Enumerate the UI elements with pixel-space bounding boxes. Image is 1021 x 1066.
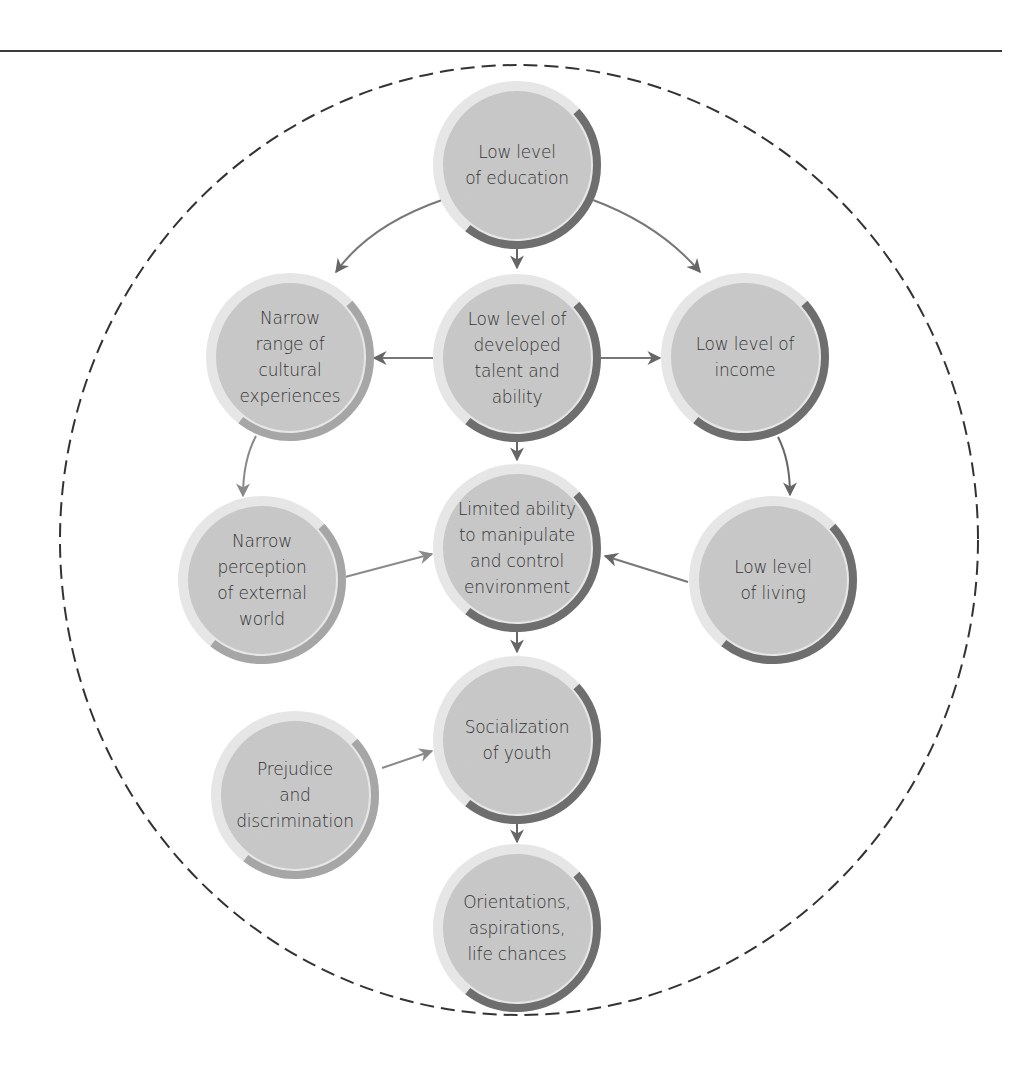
node-label-line: Narrow: [240, 305, 341, 331]
node-label-socialization: Socializationof youth: [465, 714, 569, 766]
arrow-cultural-to-perception: [243, 436, 256, 496]
node-label-cultural: Narrowrange ofculturalexperiences: [240, 305, 341, 409]
node-label-line: environment: [458, 574, 576, 600]
node-label-education: Low levelof education: [465, 139, 569, 191]
node-label-line: Socialization: [465, 714, 569, 740]
node-label-control: Limited abilityto manipulateand controle…: [458, 496, 576, 600]
node-label-line: Low level: [465, 139, 569, 165]
node-label-line: and control: [458, 548, 576, 574]
node-label-line: discrimination: [236, 808, 354, 834]
node-label-line: and: [236, 782, 354, 808]
node-label-line: perception: [217, 554, 307, 580]
node-label-line: income: [696, 357, 795, 383]
node-label-line: aspirations,: [463, 915, 571, 941]
node-label-line: of education: [465, 165, 569, 191]
node-label-line: talent and: [468, 358, 567, 384]
node-label-line: ability: [468, 384, 567, 410]
node-label-income: Low level ofincome: [696, 331, 795, 383]
node-label-orientations: Orientations,aspirations,life chances: [463, 889, 571, 967]
arrow-education-to-cultural: [336, 200, 442, 272]
node-label-line: Prejudice: [236, 756, 354, 782]
arrow-living-to-control: [605, 556, 688, 582]
node-label-line: developed: [468, 332, 567, 358]
node-label-line: Limited ability: [458, 496, 576, 522]
node-label-line: of external: [217, 580, 307, 606]
arrow-perception-to-control: [345, 554, 432, 577]
arrow-income-to-living: [778, 437, 790, 495]
node-label-living: Low levelof living: [734, 554, 812, 606]
node-label-line: Low level: [734, 554, 812, 580]
node-label-talent: Low level ofdevelopedtalent andability: [468, 306, 567, 410]
arrow-prejudice-to-socialization: [382, 751, 432, 768]
arrow-education-to-income: [593, 200, 700, 272]
node-label-line: Low level of: [468, 306, 567, 332]
node-label-line: life chances: [463, 941, 571, 967]
node-label-line: experiences: [240, 383, 341, 409]
node-label-perception: Narrowperceptionof externalworld: [217, 528, 307, 632]
node-label-line: of youth: [465, 740, 569, 766]
node-label-line: Narrow: [217, 528, 307, 554]
node-label-prejudice: Prejudiceanddiscrimination: [236, 756, 354, 834]
node-label-line: of living: [734, 580, 812, 606]
node-label-line: range of: [240, 331, 341, 357]
node-label-line: Low level of: [696, 331, 795, 357]
node-label-line: to manipulate: [458, 522, 576, 548]
node-label-line: world: [217, 606, 307, 632]
node-label-line: Orientations,: [463, 889, 571, 915]
node-label-line: cultural: [240, 357, 341, 383]
